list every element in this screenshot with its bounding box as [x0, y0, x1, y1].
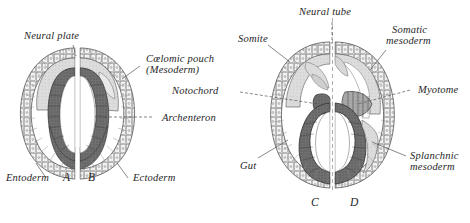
- label-neural-plate: Neural plate: [24, 30, 79, 42]
- label-myotome: Myotome: [418, 84, 458, 96]
- label-ectoderm: Ectoderm: [133, 172, 175, 184]
- label-neural-tube: Neural tube: [299, 6, 351, 18]
- panel-label-d: D: [350, 196, 358, 208]
- label-notochord: Notochord: [172, 85, 218, 97]
- label-entoderm: Entoderm: [6, 172, 49, 184]
- label-archenteron: Archenteron: [162, 112, 216, 124]
- label-splanchnic-mesoderm: Splanchnic: [410, 150, 459, 162]
- label-somite: Somite: [238, 33, 268, 45]
- label-coelomic-pouch: Cœlomic pouch: [146, 53, 214, 65]
- label-coelomic-pouch-mesoderm: (Mesoderm): [146, 64, 199, 76]
- panel-label-c: C: [311, 196, 319, 208]
- label-splanchnic-mesoderm-line2: mesoderm: [410, 161, 455, 173]
- panel-label-b: B: [88, 171, 95, 183]
- panel-label-a: A: [63, 171, 70, 183]
- embryo-figure: Neural plate Cœlomic pouch (Mesoderm) Ar…: [0, 0, 470, 223]
- label-somatic-mesoderm: Somatic: [392, 24, 427, 36]
- label-gut: Gut: [240, 160, 256, 172]
- label-somatic-mesoderm-line2: mesoderm: [386, 35, 431, 47]
